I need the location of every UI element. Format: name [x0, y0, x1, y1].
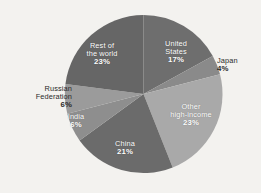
pie-label-japan: Japan 4%: [217, 57, 251, 73]
pie-value-united-states: 17%: [150, 56, 202, 64]
pie-value-other-high-income: 23%: [160, 119, 222, 127]
pie-label-rest-of-the-world: Rest of the world 23%: [74, 42, 130, 66]
pie-value-rest-of-the-world: 23%: [74, 58, 130, 66]
pie-label-russian-federation: Russian Federation 6%: [6, 85, 72, 109]
pie-value-japan: 4%: [217, 65, 251, 73]
pie-value-china: 21%: [101, 148, 149, 156]
pie-value-india: 6%: [57, 121, 95, 129]
pie-value-russian-federation: 6%: [6, 101, 72, 109]
pie-label-india: India 6%: [57, 113, 95, 129]
pie-label-other-high-income: Other high-income 23%: [160, 103, 222, 127]
pie-label-united-states: United States 17%: [150, 40, 202, 64]
pie-label-china: China 21%: [101, 140, 149, 156]
pie-chart-screenshot: United States 17% Other high-income 23% …: [0, 0, 261, 193]
